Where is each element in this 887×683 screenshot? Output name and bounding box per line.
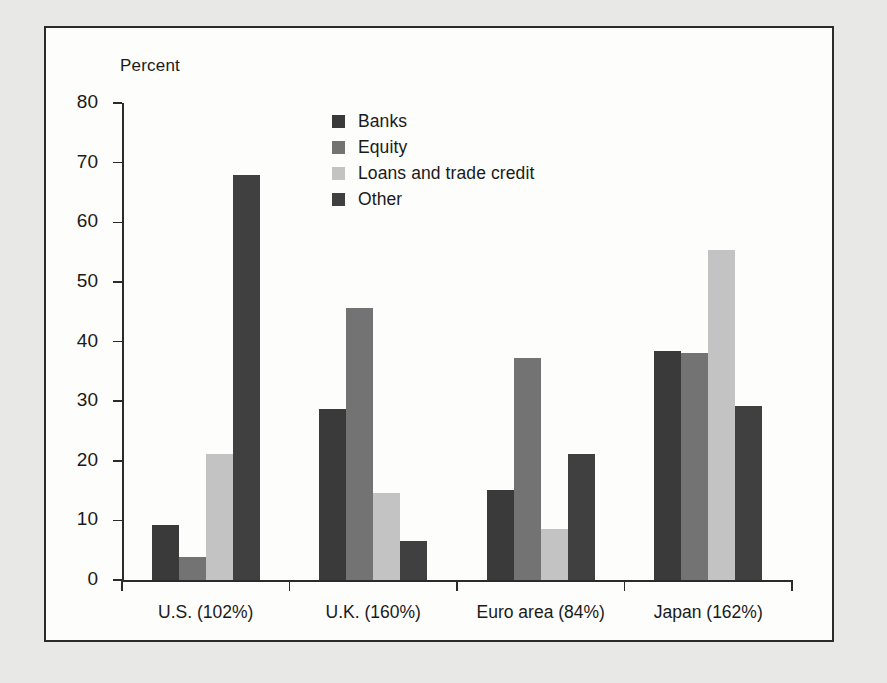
legend-swatch-icon [332,193,345,206]
bar [514,358,541,580]
bar [152,525,179,580]
bar [373,493,400,580]
bar [206,454,233,580]
legend-swatch-icon [332,115,345,128]
bar [541,529,568,580]
legend-item: Other [332,186,534,212]
plot-area: Percent 01020304050607080 U.S. (102%)U.K… [46,28,836,644]
bar [233,175,260,580]
legend-item: Equity [332,134,534,160]
bar [708,250,735,580]
x-tick-label: Euro area (84%) [477,602,605,623]
legend-label: Banks [358,111,407,132]
bar [346,308,373,580]
legend-swatch-icon [332,167,345,180]
bar [400,541,427,580]
bar [319,409,346,580]
bar [735,406,762,580]
legend-item: Loans and trade credit [332,160,534,186]
x-tick-label: U.S. (102%) [158,602,253,623]
legend-label: Loans and trade credit [358,163,534,184]
legend-label: Other [358,189,402,210]
bar [487,490,514,580]
legend-item: Banks [332,108,534,134]
chart-panel: Percent 01020304050607080 U.S. (102%)U.K… [44,26,834,642]
bar [681,353,708,580]
x-tick-label: U.K. (160%) [326,602,421,623]
bar [568,454,595,580]
legend-swatch-icon [332,141,345,154]
x-tick-label: Japan (162%) [654,602,763,623]
bar [654,351,681,580]
legend-label: Equity [358,137,407,158]
bar [179,557,206,580]
chart-legend: BanksEquityLoans and trade creditOther [332,108,534,212]
